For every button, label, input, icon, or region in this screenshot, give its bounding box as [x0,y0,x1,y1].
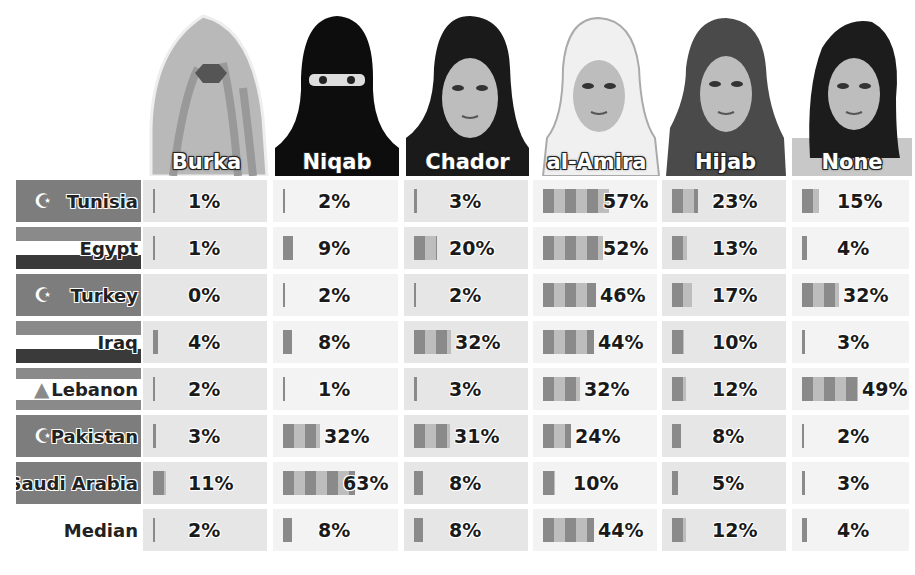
table-cell: 5% [662,462,786,504]
row-label: Egypt [80,238,138,259]
table-cell: 23% [662,180,786,222]
percent-value: 32% [324,425,369,447]
row-label: Median [64,520,138,541]
table-cell: 3% [792,321,909,363]
percent-value: 44% [598,331,643,353]
table-cell: 2% [792,415,909,457]
value-bar [153,377,155,401]
value-bar [283,377,285,401]
value-bar [283,330,292,354]
table-cell: 10% [662,321,786,363]
row-header-iraq: Iraq [16,321,141,363]
percent-value: 13% [712,237,757,259]
table-cell: 32% [404,321,528,363]
value-bar [543,424,571,448]
percent-value: 8% [449,519,481,541]
percent-value: 52% [603,237,648,259]
table-row: Egypt1%9%20%52%13%4% [0,225,915,271]
value-bar [802,424,804,448]
table-cell: 2% [273,274,398,316]
percent-value: 49% [862,378,907,400]
percent-value: 2% [449,284,481,306]
table-cell: 63% [273,462,398,504]
table-cell: 44% [533,321,657,363]
table-cell: 3% [404,180,528,222]
table-cell: 57% [533,180,657,222]
table-cell: 3% [404,368,528,410]
table-cell: 2% [273,180,398,222]
table-cell: 32% [792,274,909,316]
table-cell: 2% [143,509,267,551]
percent-value: 32% [843,284,888,306]
percent-value: 57% [603,190,648,212]
percent-value: 8% [318,519,350,541]
row-label: Pakistan [51,426,138,447]
row-header-pakistan: ☪Pakistan [16,415,141,457]
row-header-turkey: ☪Turkey [16,274,141,316]
percent-value: 63% [343,472,388,494]
column-header-row: Burka Niqab Chador al-Amira [0,0,915,178]
column-label-chador: Chador [404,150,531,174]
value-bar [543,283,596,307]
percent-value: 4% [188,331,220,353]
percent-value: 5% [712,472,744,494]
column-label-none: None [792,150,912,174]
value-bar [802,330,805,354]
table-cell: 15% [792,180,909,222]
value-bar [414,283,416,307]
column-label-al-amira: al-Amira [533,150,660,174]
table-cell: 10% [533,462,657,504]
value-bar [802,189,819,213]
percent-value: 31% [454,425,499,447]
table-cell: 20% [404,227,528,269]
value-bar [153,424,156,448]
percent-value: 2% [837,425,869,447]
percent-value: 32% [584,378,629,400]
table-cell: 4% [792,227,909,269]
percent-value: 2% [188,519,220,541]
percent-value: 2% [318,284,350,306]
row-label: Tunisia [67,191,138,212]
percent-value: 3% [188,425,220,447]
table-cell: 3% [792,462,909,504]
table-row: Iraq4%8%32%44%10%3% [0,319,915,365]
table-cell: 0% [143,274,267,316]
value-bar [543,518,594,542]
value-bar [414,236,437,260]
value-bar [672,377,686,401]
percent-value: 3% [449,190,481,212]
value-bar [283,518,292,542]
row-header-saudi-arabia: Saudi Arabia [16,462,141,504]
value-bar [543,330,594,354]
table-cell: 8% [404,509,528,551]
value-bar [414,518,423,542]
value-bar [802,518,807,542]
table-cell: 32% [533,368,657,410]
value-bar [283,283,285,307]
value-bar [543,377,580,401]
percent-value: 2% [188,378,220,400]
table-cell: 11% [143,462,267,504]
column-label-niqab: Niqab [273,150,401,174]
row-label: Saudi Arabia [16,473,138,494]
table-cell: 52% [533,227,657,269]
table-row: ☪Tunisia1%2%3%57%23%15% [0,178,915,224]
value-bar [672,283,692,307]
percent-value: 10% [712,331,757,353]
column-label-hijab: Hijab [662,150,789,174]
value-bar [543,471,555,495]
table-cell: 3% [143,415,267,457]
percent-value: 2% [318,190,350,212]
percent-value: 0% [188,284,220,306]
table-cell: 12% [662,368,786,410]
flag-emblem-icon: ☪ [34,424,52,448]
value-bar [153,518,155,542]
table-cell: 46% [533,274,657,316]
table-cell: 1% [273,368,398,410]
column-header-al-amira: al-Amira [533,8,660,176]
percent-value: 1% [188,190,220,212]
table-cell: 13% [662,227,786,269]
percent-value: 10% [573,472,618,494]
value-bar [414,377,417,401]
percent-value: 44% [598,519,643,541]
